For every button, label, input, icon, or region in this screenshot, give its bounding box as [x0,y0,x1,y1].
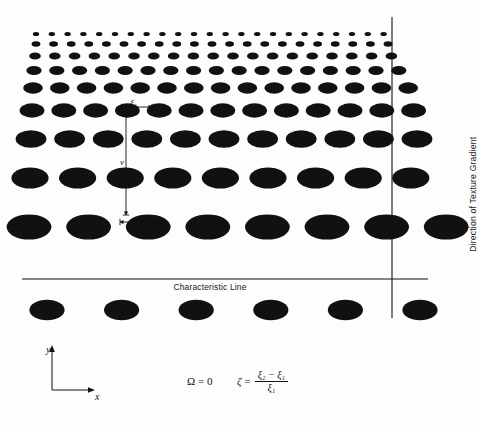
texture-ellipse [392,167,429,188]
texture-ellipse [260,41,269,47]
texture-ellipse [49,41,58,47]
texture-ellipse [143,32,149,36]
texture-ellipse [16,130,47,148]
characteristic-line-label: Characteristic Line [0,283,420,292]
texture-ellipse [95,66,110,75]
texture-ellipse [364,214,409,239]
texture-ellipse [384,41,393,47]
texture-ellipse [50,82,70,94]
texture-ellipse [23,82,43,94]
texture-ellipse [324,130,355,148]
texture-ellipse [372,82,392,94]
texture-ellipse [296,41,305,47]
omega-symbol: Ω [187,375,195,387]
texture-ellipse [424,214,469,239]
texture-ellipse [163,66,178,75]
texture-ellipse [323,66,338,75]
texture-ellipse [89,52,101,59]
texture-ellipse [264,82,284,94]
texture-ellipse [401,103,426,117]
texture-ellipse [49,52,61,59]
texture-ellipse [11,167,48,188]
texture-ellipse [349,32,355,36]
texture-ellipse [64,32,70,36]
texture-ellipse [108,52,120,59]
texture-ellipse [66,214,111,239]
texture-ellipse [286,130,317,148]
texture-ellipse [54,130,85,148]
texture-ellipse [84,41,93,47]
texture-ellipse [120,41,129,47]
texture-ellipse [326,52,338,59]
texture-ellipse [318,82,338,94]
zeta-fraction: ξ₂ − ξ₁ ξ₁ [255,370,288,393]
texture-ellipse [274,103,299,117]
texture-ellipse [391,66,406,75]
texture-ellipse [159,32,165,36]
texture-ellipse [49,66,64,75]
texture-ellipse [186,66,201,75]
texture-ellipse [317,32,323,36]
texture-ellipse [155,41,164,47]
texture-ellipse [300,66,315,75]
texture-ellipse [297,167,334,188]
coordinate-axes [49,345,95,393]
texture-ellipse [157,82,177,94]
texture-ellipse [380,32,386,36]
axis-x-label: x [95,392,99,402]
texture-ellipse [366,41,375,47]
texture-ellipse [386,52,398,59]
texture-ellipse [128,52,140,59]
texture-ellipse [26,66,41,75]
xi2-subscript: 2 [136,223,139,230]
texture-ellipse [398,82,418,94]
texture-ellipse [59,167,96,188]
xi1-label: ξ1 [130,99,137,109]
axis-y-label: y [46,345,50,355]
texture-ellipse [172,41,181,47]
texture-ellipse [80,32,86,36]
zeta-equation: ζ = ξ₂ − ξ₁ ξ₁ [237,370,288,393]
texture-ellipse [104,300,139,320]
texture-ellipse [346,52,358,59]
texture-ellipse [184,82,204,94]
texture-ellipse [7,214,52,239]
texture-ellipse [168,52,180,59]
axis-x-arrowhead [88,387,95,393]
texture-ellipse [208,41,217,47]
texture-ellipse [286,32,292,36]
texture-ellipse [72,66,87,75]
texture-gradient-figure: Characteristic Line Direction of Texture… [0,0,479,432]
texture-ellipse [232,66,247,75]
texture-ellipse [328,300,363,320]
texture-ellipse [118,66,133,75]
texture-ellipse [402,130,433,148]
texture-ellipse [306,103,331,117]
texture-ellipse [277,66,292,75]
texture-ellipse [188,52,200,59]
texture-ellipse [83,103,108,117]
texture-ellipse [202,167,239,188]
texture-ellipse [140,66,155,75]
texture-ellipse [301,32,307,36]
texture-ellipse [287,52,299,59]
texture-ellipse [247,130,278,148]
texture-ellipse [32,41,41,47]
texture-ellipse [207,32,213,36]
texture-ellipse [209,66,224,75]
texture-ellipse [225,41,234,47]
texture-ellipse [366,52,378,59]
texture-ellipse [147,103,172,117]
texture-ellipse [254,32,260,36]
xi1-subscript: 1 [134,102,137,109]
texture-ellipse [29,52,41,59]
texture-ellipse [254,66,269,75]
texture-ellipse [222,32,228,36]
texture-ellipse [345,82,365,94]
texture-ellipse [243,41,252,47]
ellipse-grid [7,32,469,320]
texture-ellipse [346,66,361,75]
omega-value: 0 [207,375,213,387]
texture-ellipse [363,130,394,148]
v-arrow-bottom [124,212,129,215]
